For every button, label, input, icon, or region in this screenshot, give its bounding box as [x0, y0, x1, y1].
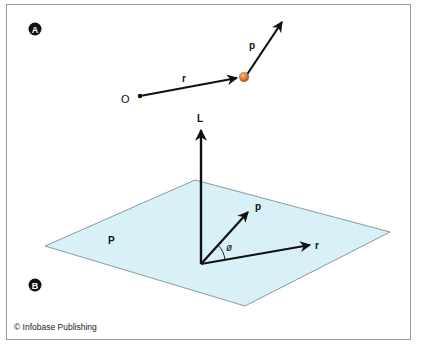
plane-p [45, 180, 390, 306]
angular-momentum-l-label: L [197, 113, 203, 124]
plane-label: P [108, 235, 115, 246]
panel-a: A O r p [29, 22, 283, 105]
position-vector-r-label-b: r [315, 240, 319, 251]
position-vector-r-arrow [140, 78, 237, 96]
origin-label: O [121, 93, 130, 105]
momentum-vector-p-label: p [249, 40, 255, 51]
panel-a-badge: A [32, 25, 39, 35]
momentum-vector-p-label-b: p [255, 201, 261, 212]
angular-momentum-diagram: A O r p P L p r ø B [0, 0, 421, 350]
panel-b-badge: B [32, 281, 39, 291]
position-vector-r-label: r [182, 73, 186, 84]
copyright-credit: © Infobase Publishing [14, 322, 97, 332]
particle-icon [239, 72, 249, 82]
panel-b: P L p r ø B [29, 113, 391, 306]
angle-label: ø [226, 242, 232, 253]
